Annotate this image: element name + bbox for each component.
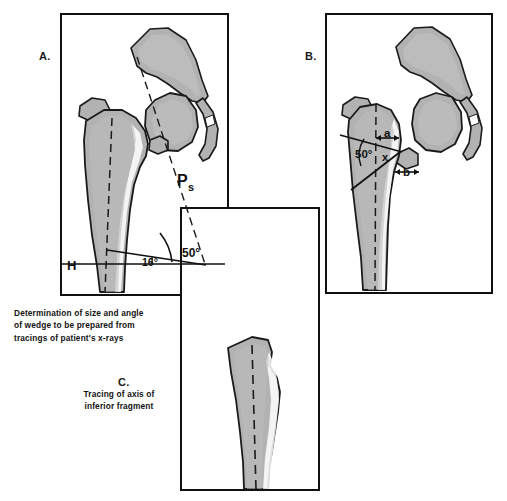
figure-root: A. B. C. Determination of size and angle…	[0, 0, 507, 501]
panel-c-letter: C.	[118, 376, 130, 388]
panel-c-caption: Tracing of axis of inferior fragment	[60, 388, 178, 413]
panel-b-letter: B.	[305, 50, 317, 62]
panel-a-letter: A.	[39, 50, 51, 62]
panel-c-frame	[180, 207, 320, 491]
panel-a-caption: Determination of size and angle of wedge…	[14, 307, 189, 344]
panel-b-frame	[325, 13, 493, 294]
